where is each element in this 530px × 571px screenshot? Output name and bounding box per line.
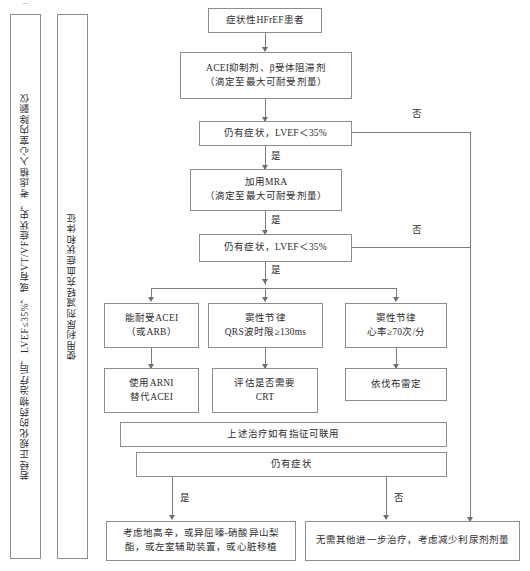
arrowhead-decision3-no bbox=[383, 515, 389, 520]
arrowhead-branch-a bbox=[148, 297, 154, 302]
node-outcome-yes-line2: 酯，或左室辅助装置，或心脏移植 bbox=[111, 541, 291, 555]
edge-label-no2: 否 bbox=[412, 226, 422, 236]
node-branch-sinus-qrs: 窦性节律 QRS波时限≥130ms bbox=[208, 303, 323, 348]
arrowhead-branch-b bbox=[262, 297, 268, 302]
node-decision-symptoms-lvef-2: 仍有症状，LVEF＜35% bbox=[199, 234, 352, 262]
connector-decision3-no bbox=[386, 477, 387, 519]
node-outcome-no-further-therapy: 无需其他进一步治疗，考虑减少利尿剂剂量 bbox=[305, 521, 520, 561]
node-branch-ivabradine: 依伐布雷定 bbox=[345, 368, 447, 401]
node-branch-a1-line2: （或ARB） bbox=[109, 326, 194, 340]
edge-label-yes1: 是 bbox=[271, 152, 281, 162]
node-start-line1: 症状性HFrEF患者 bbox=[213, 14, 317, 28]
connector-no-trunk-vertical bbox=[470, 132, 471, 521]
side-panel-icd-label: 若经正规化的药物治疗后，LVEF≤35%，或有VT/VF症状史，考虑植入心室内除… bbox=[21, 92, 31, 480]
node-branch-b1-line1: 窦性节律 bbox=[213, 312, 318, 326]
connector-decision2-no-horizontal bbox=[352, 247, 470, 248]
arrowhead-decision2-yes bbox=[262, 279, 268, 284]
connector-decision3-yes bbox=[172, 477, 173, 519]
side-panel-diuretic-label: 使用利尿剂减轻充血症状和体征 bbox=[68, 212, 78, 360]
node-combine-line1: 上述治疗如有指征可联用 bbox=[125, 428, 442, 442]
node-acei-betablocker-line2: （滴定至最大可耐受剂量） bbox=[185, 76, 347, 90]
node-acei-betablocker-line1: ACEI抑制剂、β受体阻滞剂 bbox=[185, 62, 347, 76]
node-branch-a1-line1: 能耐受ACEI bbox=[109, 312, 194, 326]
node-decision-1-line1: 仍有症状，LVEF＜35% bbox=[204, 127, 347, 141]
edge-label-yes3: 是 bbox=[271, 266, 281, 276]
node-add-mra-line2: （滴定至最大可耐受剂量） bbox=[195, 190, 337, 204]
node-branch-b2-line2: CRT bbox=[217, 391, 313, 405]
node-outcome-no-line1: 无需其他进一步治疗，考虑减少利尿剂剂量 bbox=[310, 534, 515, 548]
node-branch-c2-line1: 依伐布雷定 bbox=[350, 378, 442, 392]
node-branch-tolerates-acei: 能耐受ACEI （或ARB） bbox=[104, 303, 199, 348]
connector-decision1-no-horizontal bbox=[352, 132, 470, 133]
node-acei-betablocker: ACEI抑制剂、β受体阻滞剂 （滴定至最大可耐受剂量） bbox=[180, 52, 352, 99]
node-branch-evaluate-crt: 评估是否需要 CRT bbox=[212, 368, 318, 413]
connector-branch-bus bbox=[151, 288, 396, 289]
node-add-mra-line1: 加用MRA bbox=[195, 176, 337, 190]
node-branch-c1-line2: 心率≥70次/分 bbox=[350, 326, 442, 340]
edge-label-yes-bottom: 是 bbox=[180, 494, 190, 504]
node-branch-a2-line1: 使用ARNI bbox=[109, 377, 194, 391]
arrowhead-decision3-yes bbox=[169, 515, 175, 520]
node-branch-b1-line2: QRS波时限≥130ms bbox=[213, 326, 318, 340]
node-decision-still-symptomatic: 仍有症状 bbox=[136, 452, 447, 477]
arrowhead-branch-c bbox=[393, 297, 399, 302]
node-outcome-yes-line1: 考虑地高辛，或异屈嗪-硝酸异山梨 bbox=[111, 527, 291, 541]
side-panel-diuretic: 使用利尿剂减轻充血症状和体征 bbox=[57, 14, 88, 559]
flowchart-canvas: 一 若经正规化的药物治疗后，LVEF≤35%，或有VT/VF症状史，考虑植入心室… bbox=[0, 0, 530, 571]
corner-mark: 一 bbox=[22, 1, 29, 8]
node-combine-therapies: 上述治疗如有指征可联用 bbox=[120, 422, 447, 447]
node-decision-2-line1: 仍有症状，LVEF＜35% bbox=[204, 241, 347, 255]
node-start: 症状性HFrEF患者 bbox=[208, 8, 322, 33]
node-add-mra: 加用MRA （滴定至最大可耐受剂量） bbox=[190, 169, 342, 211]
node-branch-a2-line2: 替代ACEI bbox=[109, 391, 194, 405]
node-branch-arni-replace-acei: 使用ARNI 替代ACEI bbox=[104, 368, 199, 413]
side-panel-icd: 若经正规化的药物治疗后，LVEF≤35%，或有VT/VF症状史，考虑植入心室内除… bbox=[10, 14, 41, 559]
edge-label-yes2: 是 bbox=[271, 216, 281, 226]
node-outcome-advanced-therapy: 考虑地高辛，或异屈嗪-硝酸异山梨 酯，或左室辅助装置，或心脏移植 bbox=[106, 521, 296, 561]
edge-label-no-bottom: 否 bbox=[394, 494, 404, 504]
node-branch-sinus-hr: 窦性节律 心率≥70次/分 bbox=[345, 303, 447, 348]
node-branch-b2-line1: 评估是否需要 bbox=[217, 377, 313, 391]
node-decision-3-line1: 仍有症状 bbox=[141, 458, 442, 472]
node-decision-symptoms-lvef-1: 仍有症状，LVEF＜35% bbox=[199, 121, 352, 146]
node-branch-c1-line1: 窦性节律 bbox=[350, 312, 442, 326]
edge-label-no1: 否 bbox=[412, 110, 422, 120]
